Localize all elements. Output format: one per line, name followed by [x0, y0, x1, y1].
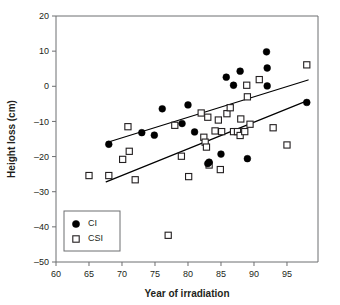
data-point-ci — [191, 129, 198, 136]
scatter-plot: 20100–10–20–30–40–50 6065707580859095 He… — [0, 0, 340, 305]
data-point-ci — [185, 102, 192, 109]
data-point-ci — [138, 129, 145, 136]
data-point-ci — [105, 141, 112, 148]
data-point-ci — [264, 65, 271, 72]
data-point-ci — [303, 99, 310, 106]
chart-figure: 20100–10–20–30–40–50 6065707580859095 He… — [0, 0, 340, 305]
data-point-ci — [263, 48, 270, 55]
data-point-csi — [106, 172, 112, 178]
data-point-csi — [224, 111, 230, 117]
data-point-csi — [198, 110, 204, 116]
data-point-csi — [125, 124, 131, 130]
legend: CICSI — [64, 211, 120, 251]
data-point-csi — [186, 174, 192, 180]
y-tick-label: –20 — [34, 152, 49, 162]
x-tick-label: 90 — [249, 269, 259, 279]
data-point-ci — [223, 74, 230, 81]
data-point-csi — [242, 129, 248, 135]
data-point-ci — [218, 151, 225, 158]
data-point-ci — [151, 132, 158, 139]
legend-label-csi: CSI — [88, 233, 103, 243]
y-tick-label: 10 — [39, 46, 49, 56]
data-point-csi — [227, 105, 233, 111]
legend-label-ci: CI — [88, 218, 97, 228]
data-point-ci — [230, 82, 237, 89]
x-axis-title: Year of irradiation — [144, 288, 229, 299]
data-point-csi — [165, 232, 171, 238]
x-tick-label: 75 — [150, 269, 160, 279]
data-point-csi — [244, 82, 250, 88]
y-tick-label: –50 — [34, 257, 49, 267]
data-point-ci — [206, 159, 213, 166]
data-point-csi — [256, 77, 262, 83]
data-point-csi — [120, 156, 126, 162]
data-point-csi — [219, 129, 225, 135]
y-axis-title: Height loss (cm) — [6, 100, 17, 178]
x-tick-label: 85 — [216, 269, 226, 279]
data-point-csi — [212, 128, 218, 134]
data-point-ci — [179, 120, 186, 127]
x-tick-label: 60 — [51, 269, 61, 279]
data-point-csi — [304, 62, 310, 68]
x-tick-label: 70 — [117, 269, 127, 279]
x-tick-label: 95 — [282, 269, 292, 279]
legend-marker-csi — [73, 236, 79, 242]
data-point-csi — [238, 116, 244, 122]
data-point-ci — [237, 68, 244, 75]
data-point-ci — [244, 155, 251, 162]
data-point-csi — [86, 172, 92, 178]
data-point-csi — [203, 144, 209, 150]
legend-box — [64, 211, 120, 251]
data-point-csi — [244, 94, 250, 100]
y-tick-label: –10 — [34, 117, 49, 127]
data-point-csi — [270, 125, 276, 131]
y-tick-label: 20 — [39, 11, 49, 21]
data-point-csi — [172, 122, 178, 128]
data-point-csi — [126, 148, 132, 154]
data-point-csi — [284, 142, 290, 148]
x-tick-label: 80 — [183, 269, 193, 279]
data-point-csi — [205, 114, 211, 120]
y-axis-ticks: 20100–10–20–30–40–50 — [34, 11, 56, 267]
y-tick-label: –30 — [34, 187, 49, 197]
y-tick-label: –40 — [34, 222, 49, 232]
y-tick-label: 0 — [44, 81, 49, 91]
data-point-csi — [215, 117, 221, 123]
data-point-csi — [247, 121, 253, 127]
legend-marker-ci — [72, 220, 79, 227]
x-axis-ticks: 6065707580859095 — [51, 262, 292, 279]
data-point-csi — [132, 177, 138, 183]
data-point-csi — [217, 166, 223, 172]
data-point-csi — [178, 153, 184, 159]
x-tick-label: 65 — [84, 269, 94, 279]
data-point-ci — [264, 83, 271, 90]
data-point-ci — [159, 105, 166, 112]
